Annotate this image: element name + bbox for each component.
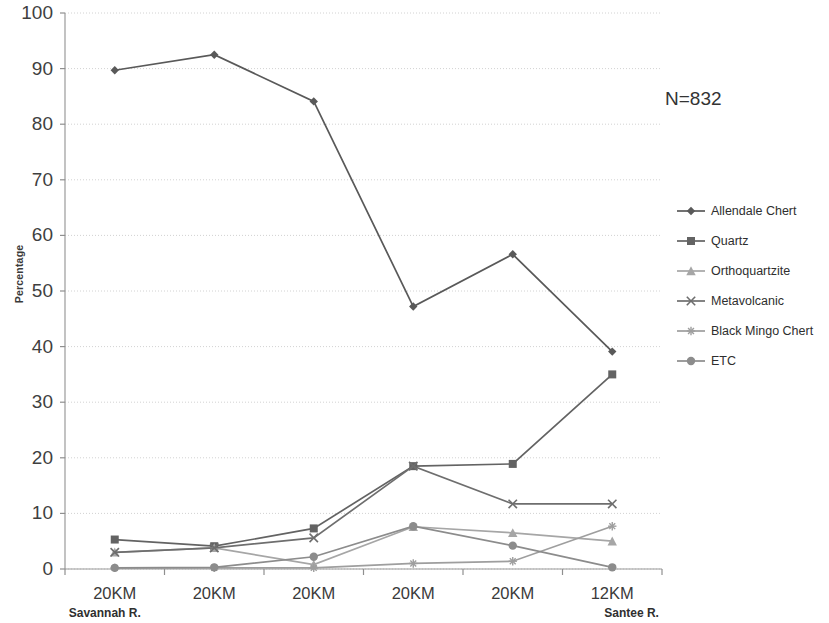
legend-item[interactable]: Allendale Chert (676, 196, 826, 226)
marker-circle (509, 541, 517, 549)
marker-star (608, 522, 616, 530)
legend-marker-icon (676, 354, 706, 368)
series-black-mingo-chert (111, 522, 617, 572)
series-line (115, 466, 613, 552)
marker-star (687, 327, 695, 335)
marker-circle (310, 553, 318, 561)
legend-swatch-circle-icon (676, 354, 706, 368)
legend-swatch-square-icon (676, 234, 706, 248)
y-axis-tick-label: 70 (0, 170, 53, 189)
x-axis-river-label: Savannah R. (69, 606, 141, 620)
x-axis-tick-label: 20KM (363, 584, 463, 603)
legend-item[interactable]: Metavolcanic (676, 286, 826, 316)
series-etc (111, 522, 617, 572)
marker-square (509, 460, 517, 468)
y-axis-tick-label: 30 (0, 392, 53, 411)
legend-item-label: Black Mingo Chert (706, 324, 813, 338)
chart-container: Percentage 1009080706050403020100 20KMSa… (0, 0, 829, 623)
legend-item-label: Allendale Chert (706, 204, 796, 218)
y-axis-tick-label: 60 (0, 225, 53, 244)
x-axis-river-label: Santee R. (604, 606, 659, 620)
marker-circle (210, 563, 218, 571)
y-axis-tick-label: 90 (0, 59, 53, 78)
legend-item[interactable]: ETC (676, 346, 826, 376)
gridlines-group (65, 13, 662, 569)
series-quartz (111, 370, 617, 550)
series-line (115, 526, 613, 568)
marker-circle (111, 564, 119, 572)
marker-circle (409, 522, 417, 530)
y-axis-tick-label: 10 (0, 503, 53, 522)
marker-star (509, 557, 517, 565)
legend-marker-icon (676, 204, 706, 218)
marker-star (409, 559, 417, 567)
y-axis-tick-label: 40 (0, 337, 53, 356)
y-axis-tick-label: 0 (0, 559, 53, 578)
y-axis-tick-label: 20 (0, 448, 53, 467)
legend-marker-icon (676, 294, 706, 308)
marker-diamond (687, 207, 695, 215)
x-axis-tick-label: 20KM (264, 584, 364, 603)
legend-swatch-cross-icon (676, 294, 706, 308)
legend-marker-icon (676, 234, 706, 248)
legend-item-label: Quartz (706, 234, 749, 248)
series-line (115, 527, 613, 565)
legend-swatch-triangle-icon (676, 264, 706, 278)
series-line (115, 374, 613, 546)
legend-item-label: ETC (706, 354, 736, 368)
marker-square (111, 536, 119, 544)
marker-square (608, 370, 616, 378)
marker-square (687, 237, 695, 245)
x-axis-tick-label: 20KM (463, 584, 563, 603)
legend-item-label: Metavolcanic (706, 294, 784, 308)
series-orthoquartzite (110, 522, 617, 569)
chart-legend: Allendale ChertQuartzOrthoquartziteMetav… (676, 196, 826, 376)
x-axis-tick-label: 20KM (65, 584, 165, 603)
legend-swatch-star-icon (676, 324, 706, 338)
y-axis-tick-label: 80 (0, 114, 53, 133)
legend-marker-icon (676, 324, 706, 338)
legend-marker-icon (676, 264, 706, 278)
y-axis-tick-label: 100 (0, 3, 53, 22)
legend-item[interactable]: Quartz (676, 226, 826, 256)
x-axis-tick-label: 12KM (562, 584, 662, 603)
marker-diamond (310, 97, 318, 105)
marker-star (310, 564, 318, 572)
series-line (115, 55, 613, 352)
series-line (115, 526, 613, 568)
legend-item[interactable]: Black Mingo Chert (676, 316, 826, 346)
legend-item[interactable]: Orthoquartzite (676, 256, 826, 286)
marker-circle (608, 563, 616, 571)
legend-item-label: Orthoquartzite (706, 264, 790, 278)
x-axis-tick-label: 20KM (164, 584, 264, 603)
y-axis-tick-label: 50 (0, 281, 53, 300)
marker-diamond (111, 66, 119, 74)
marker-diamond (210, 51, 218, 59)
marker-circle (687, 357, 695, 365)
series-allendale-chert (111, 51, 617, 356)
marker-square (310, 524, 318, 532)
marker-diamond (409, 302, 417, 310)
legend-swatch-diamond-icon (676, 204, 706, 218)
sample-size-annotation: N=832 (665, 88, 722, 110)
